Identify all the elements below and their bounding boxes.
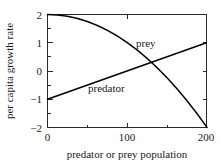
y-tick-label-neg2: −2 bbox=[30, 122, 42, 134]
x-tick-label-200: 200 bbox=[198, 131, 215, 143]
y-tick-label-neg1: −1 bbox=[30, 93, 42, 105]
y-tick-label-0: 0 bbox=[37, 65, 43, 77]
prey-curve-label: prey bbox=[136, 37, 156, 49]
predator-curve-label: predator bbox=[88, 82, 125, 94]
y-axis-title: per capita growth rate bbox=[3, 23, 15, 119]
x-tick-label-100: 100 bbox=[119, 131, 136, 143]
x-tick-label-0: 0 bbox=[45, 131, 51, 143]
growth-rate-chart: 2 1 0 −1 −2 0 100 200 predator or prey p… bbox=[0, 0, 221, 164]
y-tick-label-1: 1 bbox=[37, 37, 43, 49]
y-tick-label-2: 2 bbox=[37, 9, 43, 21]
x-axis-title: predator or prey population bbox=[67, 148, 188, 160]
chart-figure: 2 1 0 −1 −2 0 100 200 predator or prey p… bbox=[0, 0, 221, 164]
